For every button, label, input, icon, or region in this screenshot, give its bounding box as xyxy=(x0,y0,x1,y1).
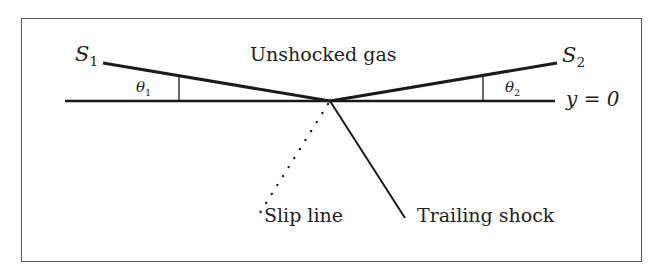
label-s1: S1 xyxy=(75,42,98,69)
label-trailing-shock: Trailing shock xyxy=(417,204,554,226)
label-s2: S2 xyxy=(562,43,585,70)
shock-diagram xyxy=(0,0,665,275)
trailing-shock-line xyxy=(330,101,405,218)
label-slip-line: Slip line xyxy=(264,204,343,226)
label-theta1: θ1 xyxy=(136,78,151,98)
label-theta2: θ2 xyxy=(505,78,520,98)
label-y-equals-0: y = 0 xyxy=(566,87,620,111)
slip-line xyxy=(258,104,328,216)
shock-s2-line xyxy=(330,63,557,101)
label-unshocked-gas: Unshocked gas xyxy=(250,43,397,65)
